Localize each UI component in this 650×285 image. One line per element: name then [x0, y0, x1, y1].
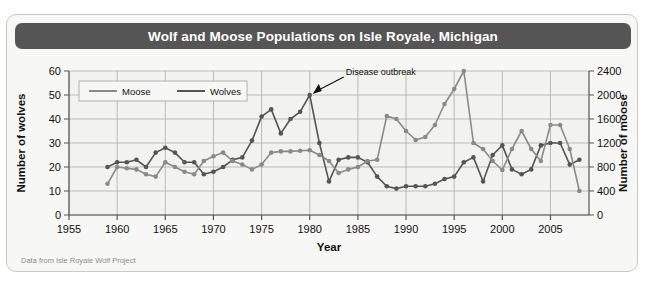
data-point-moose	[317, 153, 322, 158]
data-point-moose	[105, 182, 110, 187]
data-point-wolves	[548, 141, 553, 146]
data-point-wolves	[404, 184, 409, 189]
data-point-wolves	[317, 141, 322, 146]
data-point-moose	[423, 135, 428, 140]
x-tick-label: 2005	[538, 223, 562, 235]
data-point-wolves	[259, 114, 264, 119]
data-point-moose	[269, 150, 274, 155]
data-point-wolves	[413, 184, 418, 189]
data-point-wolves	[202, 172, 207, 177]
data-point-moose	[173, 165, 178, 170]
data-point-moose	[375, 158, 380, 163]
data-point-moose	[529, 147, 534, 152]
data-point-wolves	[163, 146, 168, 151]
data-point-wolves	[567, 162, 572, 167]
data-point-wolves	[539, 143, 544, 148]
data-point-moose	[452, 87, 457, 92]
y-tick-label-left: 10	[49, 185, 61, 197]
data-point-wolves	[221, 165, 226, 170]
data-point-wolves	[307, 93, 312, 98]
data-point-wolves	[519, 172, 524, 177]
x-tick-label: 1965	[153, 223, 177, 235]
data-point-wolves	[510, 167, 515, 172]
data-point-wolves	[144, 165, 149, 170]
data-point-wolves	[182, 160, 187, 165]
plot-container: 0102030405060040080012001600200024001955…	[7, 53, 638, 258]
data-point-moose	[471, 141, 476, 146]
x-tick-label: 1970	[201, 223, 225, 235]
data-point-wolves	[490, 153, 495, 158]
data-point-moose	[567, 147, 572, 152]
data-point-moose	[279, 149, 284, 154]
data-point-wolves	[288, 117, 293, 122]
data-point-wolves	[558, 141, 563, 146]
data-point-moose	[259, 162, 264, 167]
chart-card: Wolf and Moose Populations on Isle Royal…	[6, 14, 638, 272]
data-point-wolves	[250, 138, 255, 143]
data-point-wolves	[153, 150, 158, 155]
data-point-moose	[211, 154, 216, 159]
data-point-moose	[250, 167, 255, 172]
x-tick-label: 1955	[57, 223, 81, 235]
data-point-wolves	[500, 143, 505, 148]
data-point-moose	[462, 69, 467, 74]
data-point-moose	[481, 147, 486, 152]
data-point-wolves	[481, 179, 486, 184]
data-point-moose	[365, 159, 370, 164]
data-point-wolves	[336, 158, 341, 163]
data-point-wolves	[173, 150, 178, 155]
data-point-wolves	[394, 186, 399, 191]
x-tick-label: 1960	[105, 223, 129, 235]
data-point-moose	[230, 159, 235, 164]
data-point-moose	[327, 159, 332, 164]
data-point-moose	[384, 114, 389, 119]
data-point-moose	[442, 102, 447, 107]
x-tick-label: 1995	[442, 223, 466, 235]
data-point-moose	[404, 129, 409, 134]
data-point-wolves	[105, 165, 110, 170]
data-point-wolves	[240, 155, 245, 160]
source-note: Data from Isle Royale Wolf Project	[21, 256, 136, 265]
y-axis-label-left: Number of wolves	[15, 93, 27, 192]
data-point-wolves	[452, 174, 457, 179]
data-point-moose	[202, 159, 207, 164]
line-chart: 0102030405060040080012001600200024001955…	[7, 53, 638, 258]
data-point-moose	[413, 138, 418, 143]
x-tick-label: 1985	[346, 223, 370, 235]
data-point-moose	[144, 172, 149, 177]
x-axis-label: Year	[317, 241, 342, 253]
x-tick-label: 1980	[297, 223, 321, 235]
legend-label-wolves: Wolves	[210, 86, 241, 97]
data-point-moose	[124, 166, 129, 171]
y-tick-label-left: 40	[49, 113, 61, 125]
data-point-moose	[298, 149, 303, 154]
chart-title-bar: Wolf and Moose Populations on Isle Royal…	[15, 23, 631, 49]
data-point-moose	[433, 123, 438, 128]
data-point-moose	[519, 129, 524, 134]
data-point-moose	[134, 167, 139, 172]
x-tick-label: 1975	[249, 223, 273, 235]
data-point-moose	[346, 167, 351, 172]
data-point-wolves	[375, 174, 380, 179]
y-tick-label-left: 0	[55, 209, 61, 221]
data-point-moose	[558, 123, 563, 128]
data-point-wolves	[442, 177, 447, 182]
data-point-wolves	[298, 110, 303, 115]
data-point-moose	[394, 117, 399, 122]
data-point-wolves	[423, 184, 428, 189]
data-point-moose	[539, 159, 544, 164]
data-point-moose	[500, 168, 505, 173]
y-tick-label-left: 60	[49, 65, 61, 77]
y-axis-label-right: Number of moose	[617, 94, 629, 192]
data-point-wolves	[346, 155, 351, 160]
y-tick-label-right: 800	[597, 161, 615, 173]
y-tick-label-right: 0	[597, 209, 603, 221]
data-point-moose	[577, 189, 582, 194]
data-point-wolves	[577, 158, 582, 163]
data-point-wolves	[279, 131, 284, 136]
data-point-moose	[182, 170, 187, 175]
data-point-moose	[115, 165, 120, 170]
data-point-wolves	[327, 179, 332, 184]
y-tick-label-right: 400	[597, 185, 615, 197]
data-point-wolves	[211, 170, 216, 175]
